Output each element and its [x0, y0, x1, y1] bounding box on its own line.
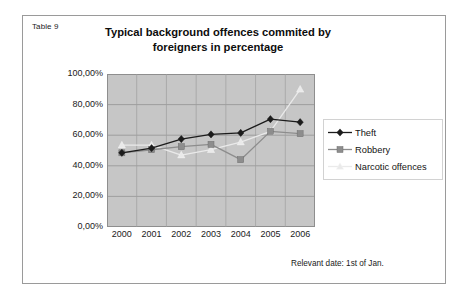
square-marker-icon [178, 144, 184, 150]
y-axis-tick-label: 20,00% [51, 190, 103, 200]
diamond-marker-icon [297, 119, 303, 126]
legend-label: Robbery [353, 145, 390, 155]
y-axis-tick-label: 0,00% [51, 221, 103, 231]
y-axis-tick-label: 40,00% [51, 160, 103, 170]
legend-item-narcotic-offences[interactable]: Narcotic offences [327, 158, 439, 175]
y-axis-tick-label: 60,00% [51, 129, 103, 139]
legend-label: Theft [353, 128, 376, 138]
square-marker-icon [267, 128, 273, 134]
square-marker-icon [238, 157, 244, 163]
square-marker-icon [327, 142, 353, 157]
diamond-marker-icon [337, 129, 343, 136]
legend-item-theft[interactable]: Theft [327, 124, 439, 141]
diamond-marker-icon [178, 135, 184, 142]
diamond-marker-icon [327, 125, 353, 140]
legend-label: Narcotic offences [353, 162, 427, 172]
x-axis-tick-label: 2006 [283, 229, 317, 239]
diamond-marker-icon [267, 116, 273, 123]
y-axis-tick-label: 100,00% [51, 68, 103, 78]
y-axis-tick-label: 80,00% [51, 99, 103, 109]
square-marker-icon [208, 141, 214, 147]
x-axis-tick-labels: 2000200120022003200420052006 [107, 229, 315, 247]
footnote-text: Relevant date: 1st of Jan. [291, 259, 384, 268]
legend-item-robbery[interactable]: Robbery [327, 141, 439, 158]
chart-legend: TheftRobberyNarcotic offences [323, 119, 443, 180]
square-marker-icon [337, 147, 343, 153]
diamond-marker-icon [208, 131, 214, 138]
triangle-marker-icon [327, 159, 353, 174]
plot-series-layer [107, 74, 315, 227]
triangle-marker-icon [297, 86, 304, 93]
y-axis-tick-labels: 100,00%80,00%60,00%40,00%20,00%0,00% [51, 16, 103, 285]
square-marker-icon [297, 131, 303, 137]
figure-frame: Table 9 Typical background offences comm… [22, 15, 446, 284]
